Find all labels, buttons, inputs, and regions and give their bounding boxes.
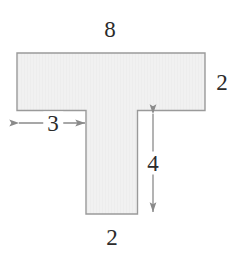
dimension-label-stem-height: 4	[143, 152, 163, 175]
dimension-label-right-height: 2	[216, 71, 228, 94]
dimension-label-stem-width: 2	[106, 226, 118, 249]
t-shape-drawing	[0, 0, 242, 264]
t-shape-figure: 8 2 3 4 2	[0, 0, 242, 264]
dimension-label-flange-left-width: 3	[43, 112, 63, 135]
dimension-label-top-width: 8	[104, 18, 116, 41]
